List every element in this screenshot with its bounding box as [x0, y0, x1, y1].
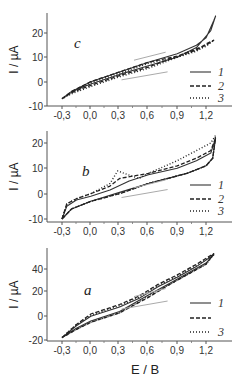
x-tick-label: 0,9: [170, 110, 184, 121]
y-tick-label: 0: [37, 77, 43, 88]
x-tick-label: 1,2: [199, 226, 213, 237]
x-tick-label: -0,3: [53, 226, 71, 237]
y-tick-label: 0: [37, 189, 43, 200]
x-tick-label: 0,6: [140, 226, 154, 237]
y-tick-label: 20: [32, 286, 44, 297]
x-tick-label: -0,3: [53, 110, 71, 121]
cyclic-voltammetry-figure: -1001020-0,30,00,30,60,91,2I / µAc123-10…: [0, 0, 244, 384]
x-tick-label: 1,2: [199, 345, 213, 356]
x-tick-label: 0,6: [140, 345, 154, 356]
y-tick-label: 40: [32, 264, 44, 275]
y-axis-title: I / µA: [7, 280, 21, 308]
panel-label: b: [82, 163, 90, 179]
y-tick-label: 0: [37, 311, 43, 322]
x-axis-title: E / B: [131, 362, 159, 377]
x-tick-label: 0,3: [111, 226, 125, 237]
panel-a: -2002040-0,30,00,30,60,91,2I / µAa13: [7, 248, 232, 356]
x-tick-label: 0,0: [83, 226, 97, 237]
x-tick-label: 0,3: [111, 110, 125, 121]
y-tick-label: 20: [32, 138, 44, 149]
y-tick-label: 20: [32, 28, 44, 39]
y-tick-label: 10: [32, 163, 44, 174]
panel-label: a: [84, 282, 92, 298]
x-tick-label: -0,3: [53, 345, 71, 356]
panel-label: c: [74, 35, 81, 51]
x-tick-label: 0,3: [111, 345, 125, 356]
forward-scan-arrow: [134, 180, 166, 188]
legend-label-1: 1: [218, 296, 224, 310]
legend-label-3: 3: [217, 91, 224, 105]
y-tick-label: -10: [29, 214, 44, 225]
legend-label-3: 3: [217, 204, 224, 218]
legend-label-3: 3: [217, 325, 224, 339]
panel-b: -1001020-0,30,00,30,60,91,2I / µAb123: [7, 131, 232, 237]
y-tick-label: -20: [29, 335, 44, 346]
legend-label-1: 1: [218, 178, 224, 192]
x-tick-label: 1,2: [199, 110, 213, 121]
x-tick-label: 0,0: [83, 110, 97, 121]
x-tick-label: 0,9: [170, 226, 184, 237]
panel-c: -1001020-0,30,00,30,60,91,2I / µAc123: [7, 13, 232, 121]
reverse-scan-arrow: [122, 301, 168, 309]
y-tick-label: -10: [29, 101, 44, 112]
y-axis-title: I / µA: [7, 162, 21, 190]
x-tick-label: 0,9: [170, 345, 184, 356]
y-tick-label: 10: [32, 52, 44, 63]
y-axis-title: I / µA: [7, 45, 21, 73]
x-tick-label: 0,0: [83, 345, 97, 356]
forward-scan-arrow: [134, 289, 166, 297]
x-tick-label: 0,6: [140, 110, 154, 121]
legend-label-1: 1: [218, 65, 224, 79]
